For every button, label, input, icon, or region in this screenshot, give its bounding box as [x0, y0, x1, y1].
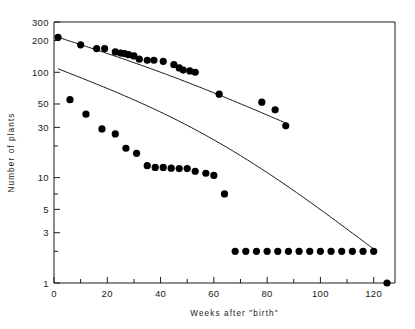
- data-point: [150, 57, 157, 64]
- data-point: [122, 145, 129, 152]
- data-point: [136, 56, 143, 63]
- data-point: [349, 248, 356, 255]
- y-tick-label: 3: [43, 227, 49, 238]
- data-point: [221, 190, 228, 197]
- scatter-plot: 300200100503010531020406080100120Weeks a…: [0, 0, 415, 329]
- data-point: [258, 99, 265, 106]
- data-point: [160, 164, 167, 171]
- y-tick-label: 10: [38, 172, 49, 183]
- fitted-curve-upper-cohort: [58, 37, 286, 123]
- data-point: [202, 170, 209, 177]
- x-tick-label: 40: [155, 288, 166, 299]
- data-point: [112, 130, 119, 137]
- data-point: [101, 45, 108, 52]
- data-point: [274, 248, 281, 255]
- data-point: [133, 150, 140, 157]
- data-point: [82, 111, 89, 118]
- data-point: [210, 172, 217, 179]
- data-point: [98, 125, 105, 132]
- x-tick-label: 120: [365, 288, 382, 299]
- data-point: [282, 122, 289, 129]
- data-point: [295, 248, 302, 255]
- x-tick-label: 100: [312, 288, 329, 299]
- data-point: [253, 248, 260, 255]
- data-point: [54, 34, 61, 41]
- data-point: [192, 168, 199, 175]
- data-point: [306, 248, 313, 255]
- axis-labels-layer: 300200100503010531020406080100120Weeks a…: [7, 17, 382, 319]
- axes-layer: [54, 22, 395, 283]
- data-points-layer: [54, 34, 390, 287]
- data-point: [144, 57, 151, 64]
- data-point: [264, 248, 271, 255]
- x-tick-label: 60: [208, 288, 219, 299]
- data-point: [242, 248, 249, 255]
- y-tick-label: 5: [43, 204, 49, 215]
- y-axis-title: Number of plants: [7, 113, 16, 193]
- y-tick-label: 200: [32, 35, 49, 46]
- data-point: [152, 164, 159, 171]
- data-point: [192, 69, 199, 76]
- data-point: [338, 248, 345, 255]
- data-point: [160, 58, 167, 65]
- y-tick-label: 300: [32, 17, 49, 28]
- data-point: [216, 91, 223, 98]
- plot-frame: [54, 22, 395, 283]
- x-tick-label: 0: [51, 288, 57, 299]
- data-point: [383, 279, 390, 286]
- y-tick-label: 100: [32, 67, 49, 78]
- data-point: [66, 96, 73, 103]
- fitted-curves-layer: [58, 37, 374, 249]
- data-point: [285, 248, 292, 255]
- y-tick-label: 1: [43, 278, 49, 289]
- fitted-curve-lower-cohort: [58, 69, 374, 249]
- data-point: [327, 248, 334, 255]
- y-tick-label: 50: [38, 98, 49, 109]
- y-tick-label: 30: [38, 122, 49, 133]
- data-point: [144, 162, 151, 169]
- data-point: [272, 106, 279, 113]
- data-point: [77, 41, 84, 48]
- data-point: [184, 165, 191, 172]
- x-axis-title: Weeks after "birth": [190, 309, 278, 318]
- data-point: [232, 248, 239, 255]
- data-point: [359, 248, 366, 255]
- x-tick-label: 20: [102, 288, 113, 299]
- data-point: [176, 165, 183, 172]
- data-point: [168, 165, 175, 172]
- figure-panel: 300200100503010531020406080100120Weeks a…: [0, 0, 415, 329]
- x-tick-label: 80: [261, 288, 272, 299]
- data-point: [180, 66, 187, 73]
- data-point: [370, 248, 377, 255]
- data-point: [317, 248, 324, 255]
- data-point: [93, 45, 100, 52]
